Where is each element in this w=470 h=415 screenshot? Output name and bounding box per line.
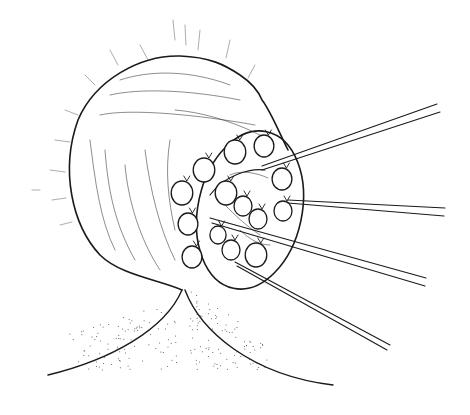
illustration-canvas	[0, 0, 470, 415]
suture-line	[237, 266, 387, 350]
nodule	[171, 176, 193, 205]
suture-line	[262, 104, 437, 166]
base-curves	[48, 290, 333, 385]
suture-line	[212, 223, 425, 286]
nodule	[254, 130, 274, 157]
nodules	[171, 130, 292, 268]
suture-line	[288, 203, 444, 216]
nodule	[215, 176, 237, 205]
nodule	[245, 238, 267, 267]
sutures	[210, 104, 445, 350]
nodule	[272, 163, 292, 190]
mass-illustration	[0, 0, 470, 415]
nodule	[178, 208, 198, 235]
suture-line	[235, 262, 390, 345]
nodule	[193, 153, 215, 182]
nodule	[224, 135, 246, 164]
suture-line	[288, 200, 445, 208]
suture-line	[262, 112, 440, 170]
